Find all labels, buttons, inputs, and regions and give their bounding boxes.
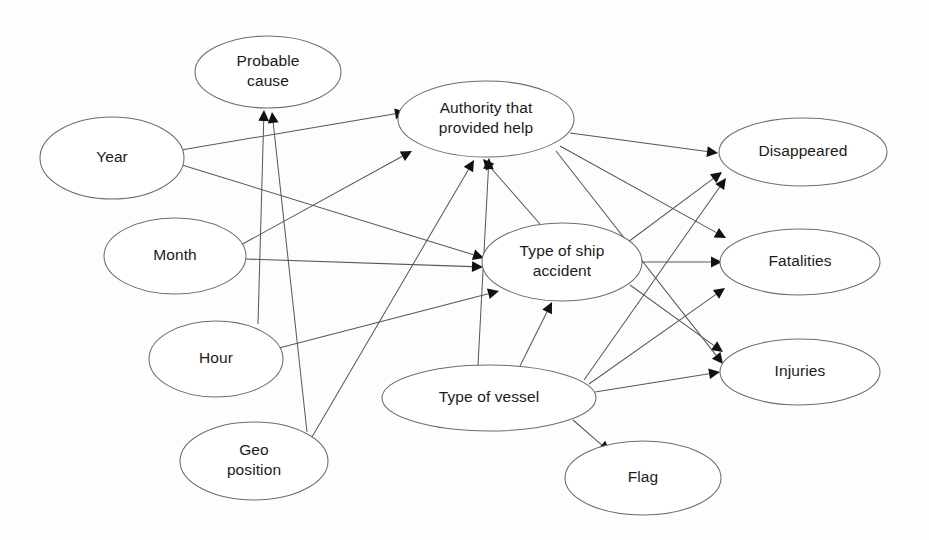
node-label: Month [153,246,197,263]
node-probable_cause[interactable]: Probablecause [195,36,341,108]
arrow-head-icon [400,151,412,161]
edge-line [239,156,402,246]
edge-line [595,374,709,392]
node-type_of_vessel[interactable]: Type of vessel [382,365,596,431]
edge-line [519,312,547,368]
node-label: position [227,461,281,478]
edge-line [490,167,540,224]
edge-line [573,420,602,445]
edge-month-to-authority [239,151,412,246]
edge-line [628,179,713,242]
edge-authority-to-disappeared [570,133,718,157]
edge-type_of_vessel-to-ship_accident [519,302,552,368]
edge-line [589,294,716,384]
arrow-head-icon [472,261,483,272]
edge-line [258,121,264,324]
edge-ship_accident-to-disappeared [628,172,722,242]
arrow-head-icon [706,146,718,157]
edge-type_of_vessel-to-fatalities [589,288,725,384]
edge-type_of_vessel-to-injuries [595,368,720,392]
node-geo_position[interactable]: Geoposition [180,422,328,500]
bayesian-network-diagram: ProbablecauseYearMonthHourGeopositionAut… [0,0,929,540]
node-label: provided help [439,119,533,136]
node-label: Year [96,148,128,165]
node-label: Authority that [440,99,533,116]
node-year[interactable]: Year [40,117,184,199]
edge-line [560,146,716,233]
edge-line [181,114,395,150]
arrow-head-icon [712,352,723,364]
node-label: Geo [239,441,269,458]
arrow-head-icon [713,288,725,299]
node-month[interactable]: Month [104,218,246,294]
edge-ship_accident-to-fatalities [641,257,722,268]
node-label: Type of vessel [439,388,539,405]
node-label: Disappeared [759,142,848,159]
arrow-head-icon [487,289,499,299]
nodes-layer: ProbablecauseYearMonthHourGeopositionAut… [40,36,887,515]
edge-year-to-authority [181,109,406,150]
graph-canvas: ProbablecauseYearMonthHourGeopositionAut… [0,0,929,540]
arrow-head-icon [708,368,720,379]
edge-hour-to-ship_accident [279,289,499,348]
node-injuries[interactable]: Injuries [720,339,880,405]
arrow-head-icon [464,160,474,172]
node-label: Flag [628,468,659,485]
edge-line [570,133,707,152]
node-hour[interactable]: Hour [149,321,283,397]
node-label: Fatalities [768,252,831,269]
edge-hour-to-probable_cause [258,110,269,324]
arrow-head-icon [268,112,279,124]
node-fatalities[interactable]: Fatalities [720,229,880,295]
arrow-head-icon [714,228,726,238]
node-authority[interactable]: Authority thatprovided help [398,81,574,157]
node-disappeared[interactable]: Disappeared [719,118,887,186]
node-label: Type of ship [520,242,605,259]
node-label: Probable [237,52,300,69]
edge-line [279,294,488,348]
node-label: cause [247,72,289,89]
edge-line [273,123,307,432]
arrow-head-icon [258,110,269,121]
node-label: accident [533,262,592,279]
edge-month-to-ship_accident [245,259,483,272]
node-label: Hour [199,349,233,366]
edge-line [245,259,472,267]
node-ship_accident[interactable]: Type of shipaccident [482,223,642,301]
node-label: Injuries [775,362,826,379]
edge-geo_position-to-probable_cause [268,112,307,432]
node-flag[interactable]: Flag [565,441,721,515]
